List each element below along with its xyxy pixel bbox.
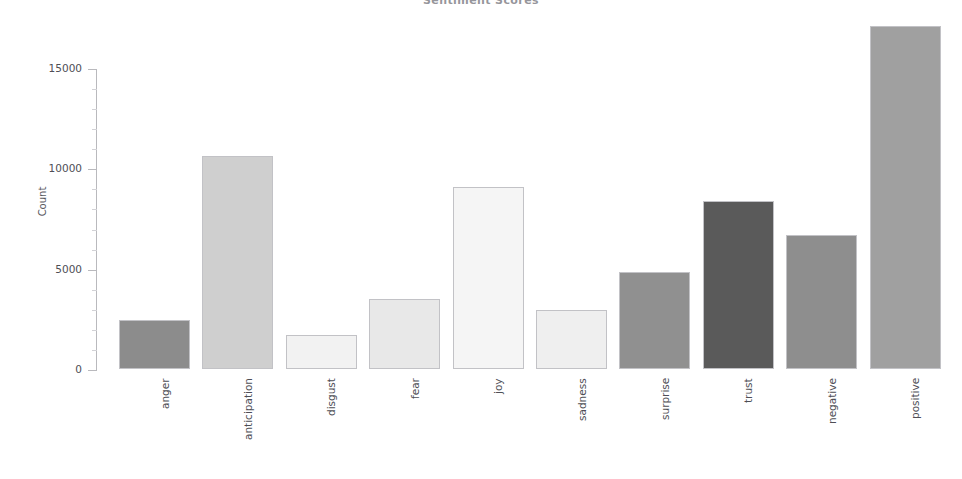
bar-positive[interactable] — [870, 26, 941, 369]
x-tick-surprise: surprise — [659, 378, 660, 474]
x-tick-negative: negative — [826, 378, 827, 474]
bar-fear[interactable] — [369, 299, 440, 369]
y-tick-0 — [88, 370, 97, 371]
x-tick-label-trust: trust — [742, 378, 754, 403]
x-tick-anticipation: anticipation — [242, 378, 243, 474]
x-tick-label-sadness: sadness — [576, 378, 588, 421]
x-tick-label-positive: positive — [909, 378, 921, 419]
x-tick-trust: trust — [742, 378, 743, 474]
x-tick-label-surprise: surprise — [659, 378, 671, 420]
bar-anticipation[interactable] — [202, 156, 273, 369]
x-tick-label-fear: fear — [409, 378, 421, 399]
x-tick-positive: positive — [909, 378, 910, 474]
x-tick-label-disgust: disgust — [325, 378, 337, 416]
x-tick-label-negative: negative — [826, 378, 838, 424]
x-tick-fear: fear — [409, 378, 410, 474]
x-tick-anger: anger — [159, 378, 160, 474]
x-tick-sadness: sadness — [576, 378, 577, 474]
bar-trust[interactable] — [703, 201, 774, 369]
x-tick-joy: joy — [492, 378, 493, 474]
x-tick-label-joy: joy — [492, 378, 504, 394]
x-tick-label-anger: anger — [159, 378, 171, 409]
bar-surprise[interactable] — [619, 272, 690, 369]
bar-joy[interactable] — [453, 187, 524, 369]
x-tick-disgust: disgust — [325, 378, 326, 474]
bar-sadness[interactable] — [536, 310, 607, 369]
sentiment-bar-chart: Sentiment Scores Count 050001000015000 a… — [0, 0, 962, 479]
bars-layer — [0, 0, 962, 370]
bar-negative[interactable] — [786, 235, 857, 369]
bar-disgust[interactable] — [286, 335, 357, 369]
bar-anger[interactable] — [119, 320, 190, 369]
x-tick-label-anticipation: anticipation — [242, 378, 254, 440]
